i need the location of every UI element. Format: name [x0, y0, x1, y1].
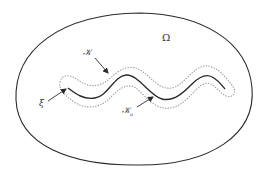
arrow-k	[95, 58, 108, 73]
label-omega: Ω	[162, 32, 170, 43]
diagram-canvas: Ω 𝒦 ξ 𝒦 o	[0, 0, 268, 174]
label-xi: ξ	[39, 98, 45, 108]
dotted-neighborhood-k	[60, 66, 235, 108]
label-k0-subscript: o	[130, 111, 133, 117]
curve-k0	[68, 75, 225, 100]
arrow-xi	[48, 89, 66, 101]
label-k: 𝒦	[83, 47, 94, 57]
